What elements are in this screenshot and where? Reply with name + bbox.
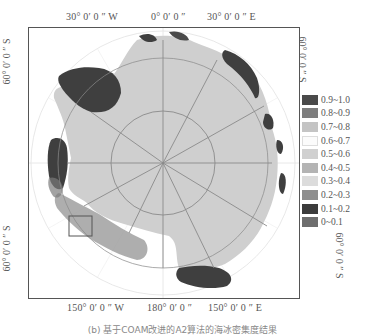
legend-label: 0.8~0.9	[321, 108, 350, 118]
legend-item: 0.2~0.3	[302, 188, 364, 202]
legend-swatch	[302, 163, 318, 173]
legend-item: 0.9~1.0	[302, 93, 364, 107]
antarctica-sea-ice-map	[29, 28, 300, 299]
legend-swatch	[302, 204, 318, 214]
lon-label-0: 0° 0′ 0 ″	[151, 11, 186, 22]
legend-swatch	[302, 108, 318, 118]
legend-swatch	[302, 176, 318, 186]
lon-label-30e: 30° 0′ 0 ″ E	[207, 11, 256, 22]
lat-label-right-bottom: 60° 0′ 0 ″ S	[334, 233, 345, 279]
lat-label-left-bottom: 60° 0′ 0 ″ S	[1, 226, 12, 272]
legend-label: 0.9~1.0	[321, 95, 350, 105]
legend-swatch	[302, 149, 318, 159]
legend-item: 0.3~0.4	[302, 175, 364, 189]
legend: 0.9~1.0 0.8~0.9 0.7~0.8 0.6~0.7 0.5~0.6 …	[302, 93, 364, 229]
legend-label: 0~0.1	[321, 217, 343, 227]
lon-label-150e: 150° 0′ 0 ″ E	[208, 302, 262, 313]
legend-item: 0.4~0.5	[302, 161, 364, 175]
lat-label-left-top: 60° 0′ 0 ″ S	[1, 39, 12, 85]
legend-swatch	[302, 122, 318, 132]
legend-label: 0.4~0.5	[321, 163, 350, 173]
lon-label-180: 180° 0′ 0 ″	[147, 302, 192, 313]
map-frame	[28, 27, 300, 299]
legend-label: 0.2~0.3	[321, 190, 350, 200]
east-coast-ice-4	[279, 173, 286, 194]
legend-item: 0.1~0.2	[302, 202, 364, 216]
legend-label: 0.1~0.2	[321, 204, 350, 214]
legend-label: 0.7~0.8	[321, 122, 350, 132]
legend-label: 0.6~0.7	[321, 136, 350, 146]
legend-item: 0.7~0.8	[302, 120, 364, 134]
legend-item: 0.8~0.9	[302, 107, 364, 121]
legend-item: 0.6~0.7	[302, 134, 364, 148]
legend-item: 0~0.1	[302, 215, 364, 229]
legend-swatch	[302, 136, 318, 146]
lon-label-150w: 150° 0′ 0 ″ W	[67, 302, 124, 313]
legend-swatch	[302, 190, 318, 200]
figure-caption: (b) 基于COAM改进的A2算法的海冰密集度结果	[0, 323, 365, 336]
legend-label: 0.5~0.6	[321, 149, 350, 159]
legend-swatch	[302, 95, 318, 105]
legend-swatch	[302, 217, 318, 227]
ross-sea-ice	[176, 266, 231, 288]
legend-item: 0.5~0.6	[302, 147, 364, 161]
lon-label-30w: 30° 0′ 0 ″ W	[66, 11, 118, 22]
legend-label: 0.3~0.4	[321, 176, 350, 186]
east-coast-ice-3	[276, 140, 283, 154]
